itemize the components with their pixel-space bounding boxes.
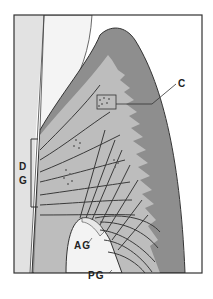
label-ag: AG xyxy=(74,241,91,251)
label-dg-g: G xyxy=(19,176,28,186)
gingiva-diagram: C D G AG PG xyxy=(0,0,213,299)
label-c: C xyxy=(178,79,186,89)
label-pg: PG xyxy=(88,271,104,281)
label-dg-d: D xyxy=(19,162,27,172)
diagram-canvas xyxy=(0,0,213,299)
